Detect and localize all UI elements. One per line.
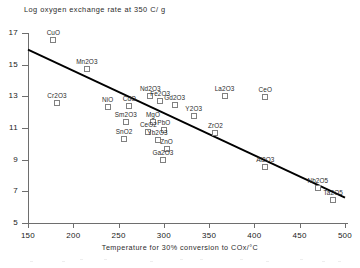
data-point-label: NiO: [102, 96, 113, 103]
scan-artifact-dot: [200, 259, 203, 260]
data-point-marker: [126, 103, 132, 109]
x-tick-mark: [164, 223, 165, 228]
scatter-chart: Log oxygen exchange rate at 350 C/ g 171…: [0, 0, 360, 268]
y-tick-label: 11: [0, 123, 18, 132]
data-point-marker: [123, 119, 129, 125]
scan-artifact-dot: [240, 259, 243, 260]
y-axis-line: [28, 33, 29, 223]
data-point-marker: [105, 104, 111, 110]
data-point-label: Y2O3: [185, 105, 202, 112]
data-point-label: Nb2O5: [307, 177, 328, 184]
data-point-marker: [54, 100, 60, 106]
data-point-label: SnO2: [116, 128, 133, 135]
y-tick-mark: [22, 33, 28, 34]
data-point-marker: [222, 93, 228, 99]
x-tick-label: 250: [99, 231, 139, 240]
data-point-marker: [50, 37, 56, 43]
x-axis-title: Temperature for 30% conversion to COx/°C: [0, 243, 360, 252]
data-point-label: MgO: [146, 111, 160, 118]
scan-artifact-dot: [30, 261, 33, 262]
y-tick-label: 5: [0, 218, 18, 227]
scan-artifact-dot: [300, 259, 303, 260]
data-point-marker: [160, 157, 166, 163]
x-tick-label: 450: [280, 231, 320, 240]
data-point-label: ZrO2: [208, 122, 223, 129]
y-tick-mark: [22, 65, 28, 66]
data-point-marker: [121, 136, 127, 142]
data-point-marker: [212, 130, 218, 136]
data-point-label: Ta2O5: [324, 189, 343, 196]
y-tick-mark: [22, 128, 28, 129]
data-point-label: Gd2O3: [164, 94, 185, 101]
x-tick-label: 400: [234, 231, 274, 240]
scan-artifact-dot: [104, 259, 107, 260]
x-tick-mark: [28, 223, 29, 228]
x-tick-mark: [345, 223, 346, 228]
y-tick-mark: [22, 96, 28, 97]
chart-title: Log oxygen exchange rate at 350 C/ g: [24, 5, 166, 14]
x-tick-label: 350: [189, 231, 229, 240]
x-tick-label: 500: [325, 231, 360, 240]
y-tick-label: 9: [0, 155, 18, 164]
x-tick-label: 200: [53, 231, 93, 240]
data-point-label: Sm2O3: [115, 111, 137, 118]
x-tick-mark: [254, 223, 255, 228]
y-tick-label: 17: [0, 28, 18, 37]
data-point-label: Al2O3: [256, 156, 274, 163]
data-point-marker: [191, 113, 197, 119]
scan-artifact-dot: [150, 261, 153, 262]
data-point-marker: [172, 102, 178, 108]
y-tick-mark: [22, 160, 28, 161]
y-tick-label: 7: [0, 186, 18, 195]
scan-artifact-dot: [62, 261, 65, 262]
data-point-marker: [262, 164, 268, 170]
data-point-label: CeO: [259, 86, 272, 93]
data-point-label: Ga2O3: [152, 149, 173, 156]
data-point-marker: [262, 94, 268, 100]
scan-artifact-dot: [180, 259, 183, 260]
scan-artifact-dot: [322, 261, 325, 262]
data-point-marker: [315, 185, 321, 191]
data-point-label: CdO: [123, 95, 136, 102]
x-tick-mark: [300, 223, 301, 228]
scan-artifact-dot: [338, 261, 341, 262]
data-point-label: CeO2: [140, 121, 157, 128]
data-point-marker: [84, 66, 90, 72]
y-tick-label: 15: [0, 60, 18, 69]
x-tick-label: 300: [144, 231, 184, 240]
y-tick-mark: [22, 191, 28, 192]
data-point-label: Yb2O3: [147, 129, 167, 136]
data-point-label: Cr2O3: [47, 92, 66, 99]
x-tick-mark: [209, 223, 210, 228]
data-point-label: ZnO: [160, 138, 173, 145]
scan-artifact-strip: [0, 256, 360, 266]
data-point-label: CuO: [47, 29, 60, 36]
data-point-label: La2O3: [215, 85, 235, 92]
scan-artifact-dot: [266, 261, 269, 262]
data-point-marker: [157, 98, 163, 104]
x-tick-mark: [119, 223, 120, 228]
data-point-label: Mn2O3: [76, 58, 97, 65]
scan-artifact-dot: [80, 259, 83, 260]
data-point-marker: [330, 197, 336, 203]
data-point-label: PbO: [157, 119, 170, 126]
y-tick-label: 13: [0, 91, 18, 100]
x-tick-label: 150: [8, 231, 48, 240]
x-tick-mark: [73, 223, 74, 228]
